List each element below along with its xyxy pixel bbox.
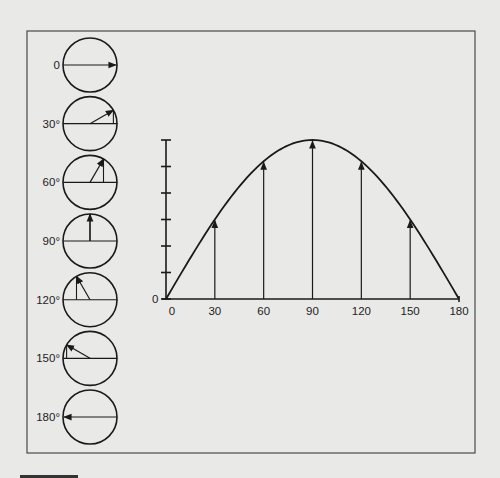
y-axis: [161, 140, 171, 299]
x-tick-label: 90: [306, 305, 319, 317]
angle-label: 0: [54, 59, 60, 71]
angle-label: 60°: [43, 176, 60, 188]
x-tick-label: 150: [401, 305, 420, 317]
phasor-circle-120: 120°: [36, 273, 117, 327]
vertical-component-arrows: [215, 141, 410, 299]
angle-label: 30°: [43, 118, 60, 130]
y-origin-label: 0: [152, 293, 158, 305]
phasor-circle-150: 150°: [36, 331, 117, 385]
angle-label: 90°: [43, 235, 60, 247]
x-tick-label: 0: [169, 305, 175, 317]
phasor-circle-0: 0: [54, 38, 117, 92]
phasor-vector-arrow: [67, 345, 90, 359]
phasor-circle-90: 90°: [43, 214, 117, 268]
angle-label: 120°: [36, 294, 60, 306]
x-axis: [162, 296, 459, 302]
phasor-sine-diagram: 030°60°90°120°150°180° 0 030609012015018…: [0, 0, 500, 478]
sine-graph: 0 0306090120150180: [152, 140, 469, 317]
phasor-vector-arrow: [77, 276, 91, 299]
angle-label: 150°: [36, 352, 60, 364]
x-tick-label: 60: [257, 305, 270, 317]
phasor-circle-60: 60°: [43, 155, 117, 209]
phasor-circles-column: 030°60°90°120°150°180°: [36, 38, 117, 444]
x-tick-label: 120: [352, 305, 371, 317]
phasor-circle-180: 180°: [36, 390, 117, 444]
phasor-circle-30: 30°: [43, 97, 117, 151]
angle-label: 180°: [36, 411, 60, 423]
x-tick-label: 30: [208, 305, 221, 317]
x-tick-labels: 0306090120150180: [169, 305, 469, 317]
phasor-vector-arrow: [90, 159, 104, 182]
x-tick-label: 180: [449, 305, 468, 317]
phasor-vector-arrow: [90, 110, 113, 124]
